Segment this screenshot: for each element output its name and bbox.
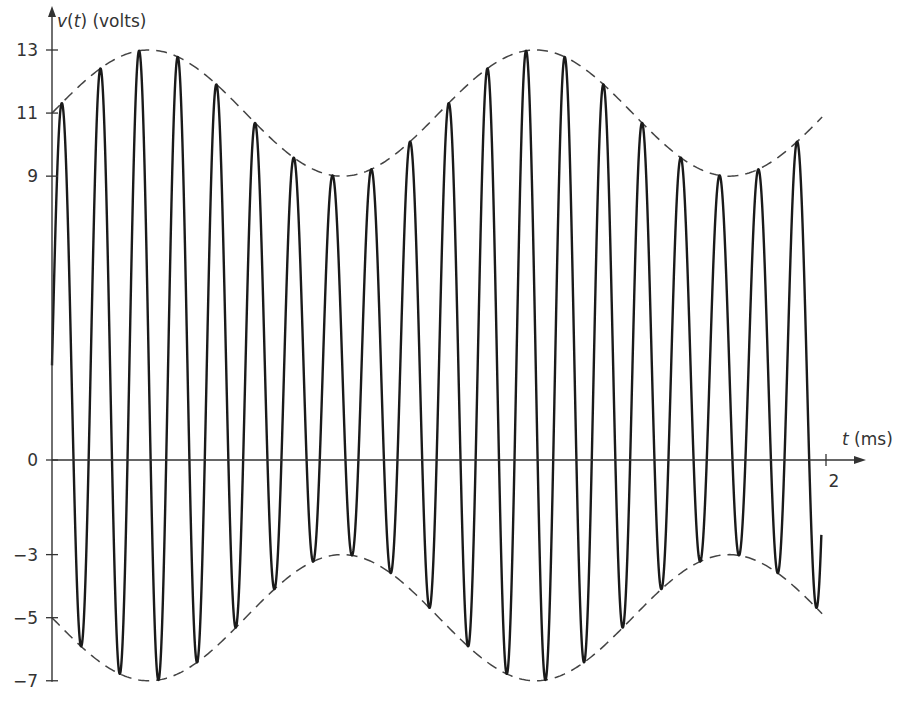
chart: 131190−3−5−7 2 v(t) (volts) t (ms) (0, 0, 905, 706)
lower-envelope-line (52, 555, 822, 681)
y-tick-label: −5 (13, 608, 38, 628)
y-ticks: 131190−3−5−7 (13, 40, 58, 691)
y-axis-title: v(t) (volts) (57, 11, 146, 31)
y-axis-title-paren-close: ) (80, 11, 87, 31)
x-axis-arrow-icon (854, 456, 866, 464)
x-axis-title: t (ms) (842, 429, 893, 449)
y-tick-label: −3 (13, 545, 38, 565)
y-axis-title-unit: (volts) (87, 11, 146, 31)
y-tick-label: −7 (13, 671, 38, 691)
x-tick-label: 2 (829, 471, 840, 491)
x-axis-title-unit: (ms) (849, 429, 893, 449)
y-axis-title-paren-open: ( (67, 11, 74, 31)
upper-envelope-line (52, 50, 822, 176)
signal (52, 51, 821, 680)
signal-line (52, 51, 821, 680)
y-tick-label: 11 (16, 103, 38, 123)
y-axis-arrow-icon (48, 6, 56, 17)
y-tick-label: 13 (16, 40, 38, 60)
y-tick-label: 0 (27, 450, 38, 470)
y-tick-label: 9 (27, 166, 38, 186)
